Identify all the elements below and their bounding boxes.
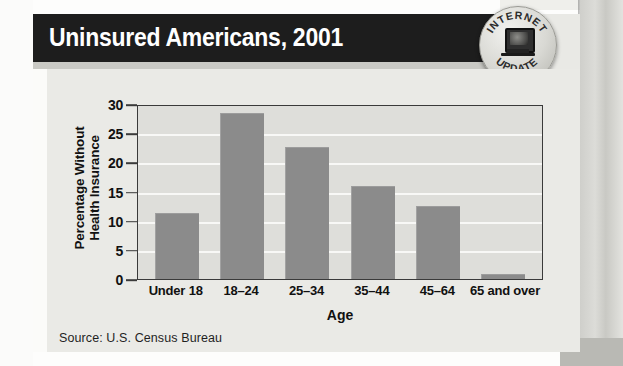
y-tick-mark xyxy=(126,133,137,135)
x-axis-tick-labels: Under 1818–2425–3435–4445–6465 and over xyxy=(137,283,543,298)
scan-edge-right xyxy=(580,0,623,366)
bar-series xyxy=(138,106,542,279)
y-tick-label: 30 xyxy=(108,97,123,113)
y-tick-label: 10 xyxy=(108,214,123,230)
y-tick-mark xyxy=(126,163,137,165)
y-tick-mark xyxy=(126,221,137,223)
screenshot-root: Uninsured Americans, 2001 INTERNET UPDAT… xyxy=(0,0,623,366)
y-axis-ticks: 051015202530 xyxy=(89,99,137,289)
bar-slot xyxy=(405,106,470,279)
x-axis-title: Age xyxy=(137,307,543,323)
y-tick-mark xyxy=(126,250,137,252)
bar[interactable] xyxy=(351,186,395,279)
x-tick-label: 45–64 xyxy=(405,283,470,298)
bar[interactable] xyxy=(416,206,460,279)
y-tick-mark xyxy=(126,192,137,194)
bar-slot xyxy=(144,106,209,279)
bar-slot xyxy=(209,106,274,279)
page-title: Uninsured Americans, 2001 xyxy=(49,23,343,52)
bar[interactable] xyxy=(481,274,525,279)
monitor-screen xyxy=(510,32,528,45)
x-label-slot: 65 and over xyxy=(470,283,535,298)
x-tick-label: 35–44 xyxy=(339,283,404,298)
bar-slot xyxy=(275,106,340,279)
y-axis-title-line1: Percentage Without xyxy=(72,98,87,278)
y-tick-label: 20 xyxy=(108,155,123,171)
y-tick-label: 5 xyxy=(116,243,124,259)
bar-slot xyxy=(340,106,405,279)
x-tick-label: 25–34 xyxy=(274,283,339,298)
x-label-slot: 35–44 xyxy=(339,283,404,298)
x-tick-label: Under 18 xyxy=(143,283,208,298)
bar-slot xyxy=(471,106,536,279)
y-tick-label: 25 xyxy=(108,126,123,142)
x-label-slot: 25–34 xyxy=(274,283,339,298)
x-tick-label: 18–24 xyxy=(208,283,273,298)
scan-edge-left xyxy=(0,0,33,366)
x-label-slot: 18–24 xyxy=(208,283,273,298)
header-underline xyxy=(33,62,533,69)
y-tick-label: 0 xyxy=(116,272,124,288)
figure-header: Uninsured Americans, 2001 xyxy=(33,14,533,62)
x-label-slot: 45–64 xyxy=(405,283,470,298)
y-tick-mark xyxy=(126,279,137,281)
bar[interactable] xyxy=(220,113,264,279)
bar-chart: Percentage Without Health Insurance 0510… xyxy=(33,69,580,352)
bar[interactable] xyxy=(285,147,329,279)
plot-area xyxy=(137,105,543,280)
bar[interactable] xyxy=(155,213,199,279)
figure-card: Uninsured Americans, 2001 INTERNET UPDAT… xyxy=(33,14,580,352)
x-label-slot: Under 18 xyxy=(143,283,208,298)
source-note: Source: U.S. Census Bureau xyxy=(59,331,222,345)
y-tick-label: 15 xyxy=(108,185,123,201)
x-tick-label: 65 and over xyxy=(470,283,535,298)
monitor-keyboard xyxy=(501,53,535,56)
y-tick-mark xyxy=(126,104,137,106)
